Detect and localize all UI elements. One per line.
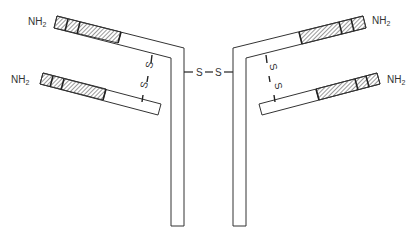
sulfur-label: S: [138, 80, 150, 90]
sulfur-label: S: [267, 62, 279, 72]
antibody-diagram: NH2 NH2 S S S S NH2 NH2: [0, 0, 417, 244]
disulfide-bond-hinge: S S: [184, 67, 233, 78]
heavy-chain-left: [54, 16, 184, 226]
light-chain-left: [40, 73, 161, 115]
disulfide-bond-right: S S: [266, 55, 285, 102]
nh2-label-light-right: NH2: [387, 74, 405, 86]
nh2-label-heavy-right: NH2: [372, 15, 390, 27]
heavy-chain-right: [233, 16, 366, 226]
nh2-label-light-left: NH2: [11, 74, 29, 86]
disulfide-bond-left: S S: [138, 55, 156, 102]
sulfur-label: S: [272, 81, 284, 91]
sulfur-label: S: [143, 60, 155, 70]
sulfur-label: S: [196, 67, 203, 78]
light-chain-right: [259, 73, 380, 115]
nh2-label-heavy-left: NH2: [28, 16, 46, 28]
sulfur-label: S: [215, 67, 222, 78]
